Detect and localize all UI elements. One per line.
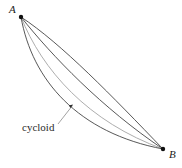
- point-a-label: A: [8, 3, 16, 15]
- brachistochrone-diagram: A B cycloid: [0, 0, 182, 168]
- cycloid-label: cycloid: [22, 121, 55, 133]
- point-a-dot: [19, 15, 23, 19]
- point-b-label: B: [169, 148, 176, 160]
- point-b-dot: [161, 147, 165, 151]
- figure-canvas: A B cycloid: [0, 0, 182, 168]
